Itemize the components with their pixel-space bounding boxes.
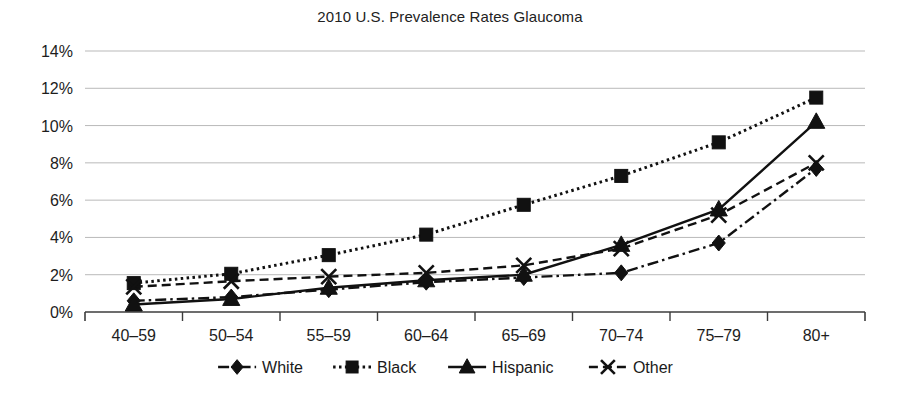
y-axis-tick-label: 2% — [50, 267, 73, 284]
legend-label: White — [262, 359, 303, 376]
y-axis-tick-label: 4% — [50, 229, 73, 246]
square-marker — [810, 91, 823, 104]
y-axis-tick-label: 14% — [41, 43, 73, 60]
legend-label: Black — [377, 359, 417, 376]
x-axis-tick-label: 80+ — [803, 327, 830, 344]
y-axis-tick-label: 10% — [41, 118, 73, 135]
legend-label: Hispanic — [492, 359, 553, 376]
glaucoma-prevalence-chart: 2010 U.S. Prevalence Rates Glaucoma 0%2%… — [0, 0, 900, 402]
square-marker — [420, 228, 433, 241]
diamond-marker — [615, 265, 628, 281]
x-axis-tick-label: 40–59 — [112, 327, 157, 344]
data-series-group — [125, 91, 825, 311]
x-axis-tick-labels: 40–5950–5455–5960–6465–6970–7475–7980+ — [112, 327, 830, 344]
square-marker — [615, 169, 628, 182]
x-axis-tick-label: 70–74 — [599, 327, 644, 344]
x-axis-tick-label: 60–64 — [404, 327, 449, 344]
diamond-marker — [231, 360, 243, 375]
y-axis-tick-label: 6% — [50, 192, 73, 209]
y-axis-tick-label: 12% — [41, 80, 73, 97]
legend-item-black[interactable]: Black — [333, 359, 417, 376]
legend-item-hispanic[interactable]: Hispanic — [448, 359, 553, 376]
legend-item-white[interactable]: White — [218, 359, 303, 376]
square-marker — [322, 249, 335, 262]
legend-label: Other — [633, 359, 674, 376]
y-axis-tick-label: 8% — [50, 155, 73, 172]
x-axis-group — [85, 312, 865, 321]
triangle-marker — [808, 113, 825, 128]
x-axis-tick-label: 55–59 — [307, 327, 352, 344]
x-axis-tick-label: 75–79 — [697, 327, 742, 344]
x-axis-tick-label: 65–69 — [502, 327, 547, 344]
series-white — [127, 160, 823, 308]
y-axis-tick-labels: 0%2%4%6%8%10%12%14% — [41, 43, 73, 321]
square-marker — [712, 136, 725, 149]
legend-item-other[interactable]: Other — [589, 359, 674, 376]
x-axis-tick-label: 50–54 — [209, 327, 254, 344]
y-axis-tick-label: 0% — [50, 304, 73, 321]
chart-plot-area: 0%2%4%6%8%10%12%14% 40–5950–5455–5960–64… — [0, 0, 900, 402]
square-marker — [517, 198, 530, 211]
square-marker — [346, 361, 358, 373]
gridlines-group — [85, 51, 865, 275]
series-black — [127, 91, 823, 289]
chart-legend: WhiteBlackHispanicOther — [218, 359, 673, 376]
